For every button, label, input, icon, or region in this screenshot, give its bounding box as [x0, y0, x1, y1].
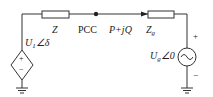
dep-source-minus: −	[19, 66, 24, 74]
label-z: Z	[52, 25, 58, 35]
impedance-zg	[148, 11, 174, 18]
label-power: P+jQ	[109, 25, 132, 35]
grid-source-minus: −	[193, 71, 198, 80]
dep-source-plus: +	[19, 55, 24, 63]
grid-source-plus: +	[193, 32, 198, 41]
label-pcc: PCC	[78, 25, 97, 35]
label-zg: Zg	[146, 25, 155, 37]
impedance-z	[42, 11, 69, 18]
label-u1: U1∠δ	[25, 38, 49, 50]
pcc-node	[94, 12, 98, 16]
label-ug: Ug∠0	[150, 51, 175, 63]
power-arrow-icon	[141, 12, 148, 17]
